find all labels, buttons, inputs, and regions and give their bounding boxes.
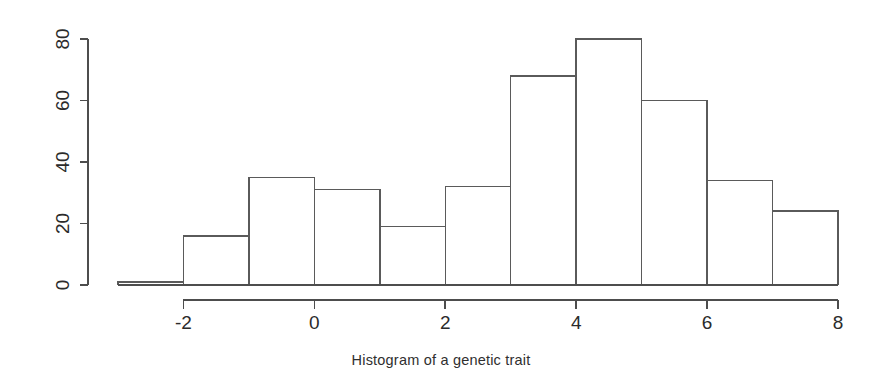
histogram-figure: 020406080-202468 xyxy=(0,0,882,386)
y-axis-tick-label: 0 xyxy=(52,280,73,291)
histogram-bar xyxy=(183,236,248,285)
x-axis-tick-label: -2 xyxy=(175,312,192,333)
histogram-bar xyxy=(642,101,707,286)
histogram-bar xyxy=(249,177,314,285)
x-axis-tick-label: 2 xyxy=(440,312,451,333)
x-axis-tick-label: 6 xyxy=(702,312,713,333)
x-axis-tick-label: 8 xyxy=(833,312,844,333)
histogram-bar xyxy=(380,227,445,285)
histogram-bar xyxy=(707,180,772,285)
histogram-bar xyxy=(576,39,641,285)
histogram-plot-area: 020406080-202468 Histogram of a genetic … xyxy=(0,0,882,386)
histogram-bar xyxy=(314,190,379,285)
histogram-bar xyxy=(773,211,838,285)
y-axis-tick-label: 20 xyxy=(52,213,73,234)
histogram-bar xyxy=(445,187,510,285)
y-axis-tick-label: 80 xyxy=(52,28,73,49)
chart-caption: Histogram of a genetic trait xyxy=(0,352,882,368)
y-axis-tick-label: 60 xyxy=(52,90,73,111)
y-axis-tick-label: 40 xyxy=(52,151,73,172)
x-axis-tick-label: 4 xyxy=(571,312,582,333)
x-axis-tick-label: 0 xyxy=(309,312,320,333)
histogram-bar xyxy=(511,76,576,285)
